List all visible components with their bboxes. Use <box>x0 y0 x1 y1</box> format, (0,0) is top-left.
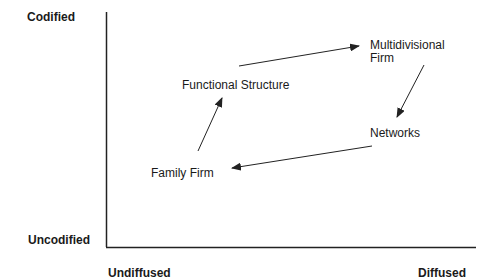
arrow-functional-to-multidivisional <box>239 46 359 66</box>
arrow-networks-to-family <box>232 146 372 168</box>
node-networks: Networks <box>370 126 420 140</box>
node-multidivisional-firm-line2: Firm <box>370 51 394 65</box>
arrow-multidivisional-to-networks <box>397 65 424 117</box>
y-axis-bottom-label: Uncodified <box>28 233 90 247</box>
x-axis-right-label: Diffused <box>418 266 466 279</box>
arrow-family-to-functional <box>198 98 222 151</box>
node-multidivisional-firm-line1: Multidivisional <box>370 38 445 52</box>
y-axis-top-label: Codified <box>27 10 75 24</box>
node-functional-structure: Functional Structure <box>182 78 289 92</box>
node-family-firm: Family Firm <box>151 166 214 180</box>
x-axis-left-label: Undiffused <box>108 266 171 279</box>
